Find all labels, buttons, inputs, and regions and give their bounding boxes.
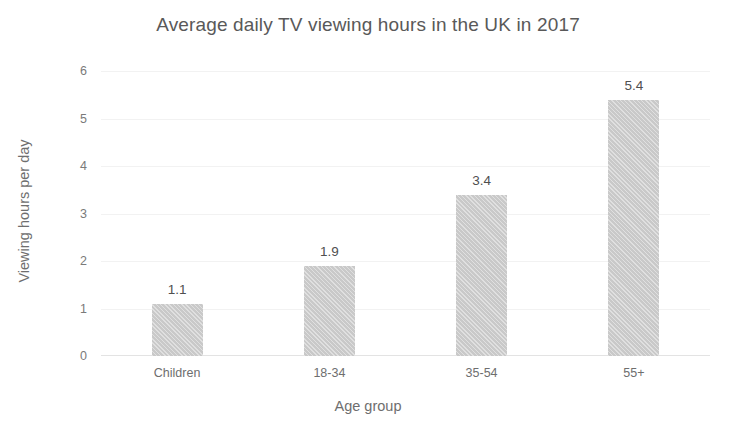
bar-value-label: 1.1 [168,282,187,297]
x-tick-label: 18-34 [313,366,345,380]
bar-value-label: 5.4 [625,78,644,93]
y-axis-tick-labels: 0123456 [41,71,101,356]
x-tick-label: 55+ [623,366,644,380]
y-tick-label: 1 [47,302,87,316]
bar [608,100,659,357]
bar [304,266,355,356]
x-tick-label: 35-54 [466,366,498,380]
y-tick-label: 5 [47,112,87,126]
gridline [101,71,710,72]
y-tick-label: 2 [47,254,87,268]
bar-value-label: 3.4 [472,173,491,188]
bar [456,195,507,357]
bar [152,304,203,356]
x-axis-title: Age group [0,398,736,414]
y-tick-label: 0 [47,349,87,363]
plot-area [101,71,710,356]
chart-title: Average daily TV viewing hours in the UK… [0,14,736,36]
y-tick-label: 3 [47,207,87,221]
y-axis-title: Viewing hours per day [16,126,32,296]
y-tick-label: 6 [47,64,87,78]
bar-value-label: 1.9 [320,244,339,259]
y-tick-label: 4 [47,159,87,173]
x-tick-label: Children [154,366,201,380]
bar-chart: Average daily TV viewing hours in the UK… [0,0,736,442]
